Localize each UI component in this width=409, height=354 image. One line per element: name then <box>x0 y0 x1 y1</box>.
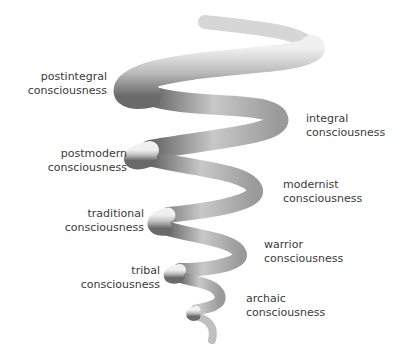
label-tribal: tribal consciousness <box>81 264 160 292</box>
label-line: consciousness <box>283 192 362 206</box>
label-postintegral: postintegral consciousness <box>28 70 107 98</box>
label-line: consciousness <box>65 221 144 235</box>
label-line: traditional <box>65 207 144 221</box>
label-line: integral <box>306 112 385 126</box>
label-modernist: modernist consciousness <box>283 178 362 206</box>
label-postmodern: postmodern consciousness <box>48 147 127 175</box>
label-line: archaic <box>246 292 325 306</box>
label-line: consciousness <box>81 278 160 292</box>
label-line: consciousness <box>264 252 343 266</box>
label-integral: integral consciousness <box>306 112 385 140</box>
spiral-diagram: postintegral consciousness postmodern co… <box>0 0 409 354</box>
label-line: postmodern <box>48 147 127 161</box>
spiral-graphic <box>0 0 409 354</box>
label-line: warrior <box>264 238 343 252</box>
label-line: modernist <box>283 178 362 192</box>
label-line: consciousness <box>28 84 107 98</box>
label-line: consciousness <box>306 126 385 140</box>
label-line: consciousness <box>48 161 127 175</box>
label-line: postintegral <box>28 70 107 84</box>
label-archaic: archaic consciousness <box>246 292 325 320</box>
label-line: consciousness <box>246 306 325 320</box>
label-warrior: warrior consciousness <box>264 238 343 266</box>
label-line: tribal <box>81 264 160 278</box>
label-traditional: traditional consciousness <box>65 207 144 235</box>
